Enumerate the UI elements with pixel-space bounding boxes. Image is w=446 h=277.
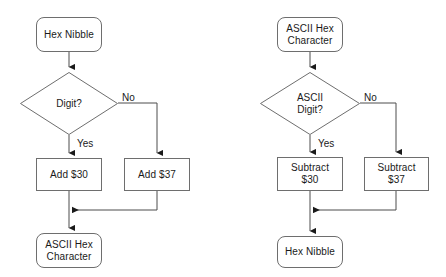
right-decision-node[interactable]: ASCII Digit? xyxy=(260,72,360,135)
right-end-node[interactable]: Hex Nibble xyxy=(277,236,343,268)
left-yes-action-node[interactable]: Add $30 xyxy=(36,158,102,191)
left-decision-shape xyxy=(20,72,118,135)
left-no-action-node[interactable]: Add $37 xyxy=(124,158,190,191)
right-no-label: No xyxy=(364,92,377,104)
left-start-node[interactable]: Hex Nibble xyxy=(36,17,102,52)
left-yes-label: Yes xyxy=(77,138,93,150)
right-no-action-node[interactable]: Subtract $37 xyxy=(364,157,429,191)
node-layer: Hex Nibble Digit? Yes No Add $30 Add $37… xyxy=(0,0,446,277)
right-decision-shape xyxy=(260,72,360,135)
left-end-node[interactable]: ASCII Hex Character xyxy=(36,233,102,268)
flowchart-diagram: Hex Nibble Digit? Yes No Add $30 Add $37… xyxy=(0,0,446,277)
left-no-label: No xyxy=(122,92,135,104)
left-decision-node[interactable]: Digit? xyxy=(20,72,118,135)
right-start-node[interactable]: ASCII Hex Character xyxy=(277,17,343,52)
right-yes-label: Yes xyxy=(318,138,334,150)
right-yes-action-node[interactable]: Subtract $30 xyxy=(277,157,343,191)
